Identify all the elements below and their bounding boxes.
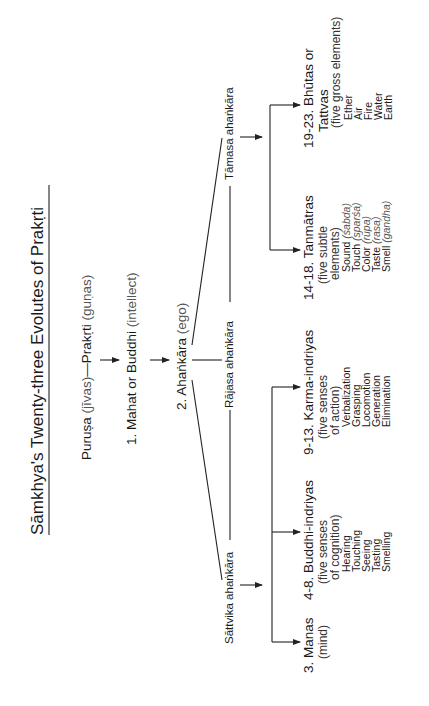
- tanmatras-gloss-1: (five subtle: [317, 195, 329, 300]
- karma-title: 9-13. Karma-indriyas: [302, 330, 316, 455]
- root-node: Puruṣa (jīvas)—Prakṛti (guṇas): [80, 275, 94, 460]
- sattvika-label: Sāttvika ahaṅkāra: [224, 552, 236, 644]
- list-item: Verbalization: [341, 330, 351, 427]
- tanmatras-list: Sound (śabda) Touch (sparśa) Color (rūpa…: [341, 195, 391, 300]
- tanmatras-title: 14-18. Tanmātras: [302, 195, 316, 300]
- buddhi-gloss-2: of cognition): [329, 480, 341, 600]
- karma-indriyas-node: 9-13. Karma-indriyas (five senses of act…: [302, 330, 391, 455]
- tamasa-label: Tāmasa ahaṅkāra: [224, 87, 236, 180]
- list-item: Generation: [371, 330, 381, 427]
- ahankara-gloss: (ego): [174, 303, 189, 335]
- manas-gloss: (mind): [317, 617, 329, 673]
- list-item: Grasping: [351, 330, 361, 427]
- bhutas-gloss: (five gross elements): [330, 17, 342, 148]
- manas-title: 3. Manas: [302, 617, 316, 673]
- buddhi-indriyas-node: 4-8. Buddhi-indriyas (five senses of cog…: [302, 480, 391, 600]
- bhutas-list: Ether Air Fire Water Earth: [343, 17, 393, 148]
- purusa-label: Puruṣa: [79, 417, 94, 460]
- list-item: Smelling: [381, 480, 391, 572]
- ahankara-label: 2. Ahaṅkāra: [174, 338, 189, 410]
- prakrti-label: Prakṛti: [79, 324, 94, 363]
- bhutas-node: 19-23. Bhūtas or Tattvas (five gross ele…: [302, 17, 393, 148]
- buddhi-gloss-1: (five senses: [317, 480, 329, 600]
- list-item: Ether: [343, 17, 353, 120]
- purusa-gloss: (jīvas): [79, 377, 94, 414]
- buddhi-list: Hearing Touching Seeing Tasting Smelling: [341, 480, 391, 600]
- tanmatras-node: 14-18. Tanmātras (five subtle elements) …: [302, 195, 391, 300]
- karma-list: Verbalization Grasping Locomotion Genera…: [341, 330, 391, 455]
- karma-gloss-2: of action): [329, 330, 341, 455]
- list-item: Touching: [351, 480, 361, 572]
- list-item: Earth: [383, 17, 393, 120]
- list-item: Tasting: [371, 480, 381, 572]
- list-item: Seeing: [361, 480, 371, 572]
- manas-node: 3. Manas (mind): [302, 617, 329, 673]
- list-item: Locomotion: [361, 330, 371, 427]
- list-item: Elimination: [381, 330, 391, 427]
- diagram-title: Sāmkhya's Twenty-three Evolutes of Prakṛ…: [29, 207, 46, 535]
- samkhya-diagram: Sāmkhya's Twenty-three Evolutes of Prakṛ…: [0, 0, 429, 706]
- karma-gloss-1: (five senses: [317, 330, 329, 455]
- ahankara-node: 2. Ahaṅkāra (ego): [175, 303, 189, 410]
- prakrti-gloss: (guṇas): [79, 275, 94, 321]
- list-item: Smell (gandha): [381, 195, 391, 272]
- buddhi-title: 4-8. Buddhi-indriyas: [302, 480, 316, 600]
- mahat-label: 1. Mahat or Buddhi: [124, 331, 139, 445]
- mahat-node: 1. Mahat or Buddhi (intellect): [125, 272, 139, 445]
- bhutas-title-2: Tattvas: [317, 17, 331, 148]
- list-item: Hearing: [341, 480, 351, 572]
- root-dash: —: [79, 363, 94, 377]
- rajasa-label: Rājasa ahaṅkāra: [224, 321, 236, 408]
- mahat-gloss: (intellect): [124, 272, 139, 327]
- bhutas-title: 19-23. Bhūtas or: [302, 17, 316, 148]
